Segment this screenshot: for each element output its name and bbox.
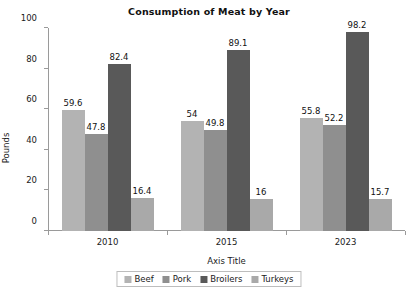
legend-item-broilers[interactable]: Broilers bbox=[200, 274, 242, 284]
y-axis-tick-label: 60 bbox=[26, 94, 37, 104]
bar-turkeys-2023[interactable]: 15.7 bbox=[369, 199, 392, 231]
chart-legend: BeefPorkBroilersTurkeys bbox=[116, 271, 301, 287]
y-axis-tick-label: 0 bbox=[32, 216, 37, 226]
legend-item-turkeys[interactable]: Turkeys bbox=[251, 274, 293, 284]
bar-value-label: 54 bbox=[186, 110, 199, 119]
bar-group: 5449.889.1162015 bbox=[167, 28, 286, 231]
bar-slot: 15.7 bbox=[369, 28, 392, 231]
y-axis-tick-label: 100 bbox=[21, 13, 37, 23]
bar-slot: 16 bbox=[250, 28, 273, 231]
bar-slot: 55.8 bbox=[300, 28, 323, 231]
bar-value-label: 52.2 bbox=[324, 114, 345, 123]
legend-label: Broilers bbox=[210, 274, 242, 284]
bar-beef-2015[interactable]: 54 bbox=[181, 121, 204, 231]
bar-value-label: 16 bbox=[255, 188, 268, 197]
bar-group: 59.647.882.416.42010 bbox=[48, 28, 167, 231]
x-axis-category-label: 2023 bbox=[335, 237, 357, 247]
y-axis-tick-label: 20 bbox=[26, 175, 37, 185]
bar-slot: 49.8 bbox=[204, 28, 227, 231]
y-axis-title: Pounds bbox=[1, 132, 11, 163]
bar-value-label: 15.7 bbox=[370, 188, 391, 197]
x-axis-tick bbox=[405, 231, 406, 235]
y-axis-tick-label: 80 bbox=[26, 54, 37, 64]
bar-slot: 82.4 bbox=[108, 28, 131, 231]
x-axis-tick bbox=[167, 231, 168, 235]
bar-turkeys-2010[interactable]: 16.4 bbox=[131, 198, 154, 231]
legend-item-beef[interactable]: Beef bbox=[124, 274, 153, 284]
bar-broilers-2010[interactable]: 82.4 bbox=[108, 64, 131, 231]
legend-label: Pork bbox=[173, 274, 191, 284]
legend-swatch-icon bbox=[124, 276, 131, 283]
legend-swatch-icon bbox=[200, 276, 207, 283]
bar-value-label: 98.2 bbox=[347, 21, 368, 30]
bar-slot: 47.8 bbox=[85, 28, 108, 231]
bar-value-label: 89.1 bbox=[228, 39, 249, 48]
x-axis-category-label: 2015 bbox=[216, 237, 238, 247]
x-axis-title: Axis Title bbox=[48, 256, 405, 266]
legend-swatch-icon bbox=[251, 276, 258, 283]
bar-slot: 59.6 bbox=[62, 28, 85, 231]
bar-slot: 89.1 bbox=[227, 28, 250, 231]
x-axis-tick bbox=[48, 231, 49, 235]
legend-label: Beef bbox=[134, 274, 153, 284]
chart-title: Consumption of Meat by Year bbox=[0, 6, 418, 17]
bar-broilers-2015[interactable]: 89.1 bbox=[227, 50, 250, 231]
plot-area: 020406080100 59.647.882.416.420105449.88… bbox=[48, 28, 405, 231]
bar-slot: 98.2 bbox=[346, 28, 369, 231]
bar-slot: 52.2 bbox=[323, 28, 346, 231]
bar-value-label: 59.6 bbox=[63, 99, 84, 108]
bar-value-label: 16.4 bbox=[132, 187, 153, 196]
bar-value-label: 55.8 bbox=[301, 107, 322, 116]
x-axis-tick bbox=[286, 231, 287, 235]
bar-pork-2015[interactable]: 49.8 bbox=[204, 130, 227, 231]
legend-swatch-icon bbox=[163, 276, 170, 283]
bar-value-label: 47.8 bbox=[86, 123, 107, 132]
bar-beef-2023[interactable]: 55.8 bbox=[300, 118, 323, 231]
bar-value-label: 49.8 bbox=[205, 119, 226, 128]
bar-pork-2023[interactable]: 52.2 bbox=[323, 125, 346, 231]
x-axis-category-label: 2010 bbox=[97, 237, 119, 247]
y-axis-tick-label: 40 bbox=[26, 135, 37, 145]
bar-groups: 59.647.882.416.420105449.889.116201555.8… bbox=[48, 28, 405, 231]
bar-slot: 16.4 bbox=[131, 28, 154, 231]
bar-broilers-2023[interactable]: 98.2 bbox=[346, 32, 369, 231]
bar-chart: Consumption of Meat by Year Pounds 02040… bbox=[0, 0, 418, 295]
bar-slot: 54 bbox=[181, 28, 204, 231]
bar-group: 55.852.298.215.72023 bbox=[286, 28, 405, 231]
bar-value-label: 82.4 bbox=[109, 53, 130, 62]
legend-item-pork[interactable]: Pork bbox=[163, 274, 191, 284]
bar-pork-2010[interactable]: 47.8 bbox=[85, 134, 108, 231]
legend-label: Turkeys bbox=[261, 274, 293, 284]
bar-beef-2010[interactable]: 59.6 bbox=[62, 110, 85, 231]
bar-turkeys-2015[interactable]: 16 bbox=[250, 199, 273, 231]
